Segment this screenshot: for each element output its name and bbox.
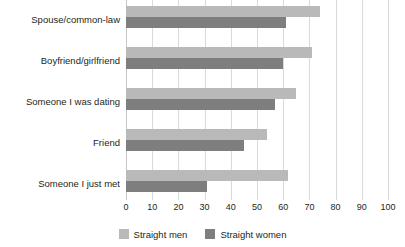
bar-group (126, 129, 388, 151)
bar-straight-women (126, 140, 244, 151)
category-axis: Spouse/common-lawBoyfriend/girlfriendSom… (0, 0, 120, 200)
category-label: Someone I was dating (0, 96, 120, 107)
category-label: Friend (0, 137, 120, 148)
x-tick-label: 20 (173, 201, 183, 213)
legend-label: Straight men (134, 229, 188, 240)
bar-straight-men (126, 170, 288, 181)
bar-group (126, 170, 388, 192)
legend-swatch-icon (119, 229, 129, 239)
x-axis: 0102030405060708090100 (126, 201, 388, 217)
x-tick-label: 80 (331, 201, 341, 213)
category-label: Spouse/common-law (0, 14, 120, 25)
bar-straight-men (126, 129, 267, 140)
bar-straight-women (126, 181, 207, 192)
bar-straight-women (126, 58, 283, 69)
x-tick-label: 10 (147, 201, 157, 213)
plot-area (126, 0, 388, 200)
x-tick-label: 100 (380, 201, 395, 213)
legend-item-straight-women[interactable]: Straight women (205, 229, 286, 240)
x-tick-label: 0 (123, 201, 128, 213)
x-tick-label: 70 (304, 201, 314, 213)
bar-straight-men (126, 47, 312, 58)
bar-group (126, 6, 388, 28)
bar-straight-men (126, 88, 296, 99)
bar-group (126, 47, 388, 69)
legend-label: Straight women (220, 229, 286, 240)
bar-chart: Spouse/common-lawBoyfriend/girlfriendSom… (0, 0, 405, 247)
bar-group (126, 88, 388, 110)
category-label: Boyfriend/girlfriend (0, 55, 120, 66)
gridline-100 (388, 0, 389, 200)
bar-straight-men (126, 6, 320, 17)
x-tick-label: 60 (278, 201, 288, 213)
x-tick-label: 30 (200, 201, 210, 213)
x-tick-label: 90 (357, 201, 367, 213)
x-tick-label: 40 (226, 201, 236, 213)
legend-swatch-icon (205, 229, 215, 239)
bar-straight-women (126, 17, 286, 28)
legend-item-straight-men[interactable]: Straight men (119, 229, 188, 240)
category-label: Someone I just met (0, 178, 120, 189)
x-tick-label: 50 (252, 201, 262, 213)
bar-straight-women (126, 99, 275, 110)
chart-legend: Straight menStraight women (0, 226, 405, 242)
